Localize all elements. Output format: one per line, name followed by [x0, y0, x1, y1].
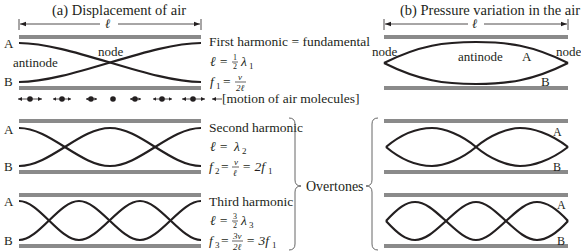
node-label-right: node — [556, 44, 581, 59]
svg-text:= 2f: = 2f — [242, 159, 267, 174]
svg-text:ℓ: ℓ — [233, 168, 237, 178]
label-a: A — [553, 125, 562, 139]
svg-text:2: 2 — [233, 221, 237, 230]
svg-text:3: 3 — [233, 212, 237, 221]
overtones-bracket: Overtones — [289, 118, 378, 250]
svg-text:λ: λ — [240, 54, 247, 69]
panel-a-title: (a) Displacement of air — [52, 2, 186, 19]
label-a: A — [4, 36, 14, 51]
fundamental-text: First harmonic = fundamental ℓ = 1 2 λ 1… — [209, 34, 370, 93]
length-symbol: ℓ — [472, 16, 478, 31]
node-label: node — [98, 44, 124, 59]
harmonic-name: Third harmonic — [209, 194, 293, 209]
tube-wall-bottom — [384, 170, 568, 174]
antinode-label: antinode — [13, 55, 58, 70]
svg-text:3: 3 — [215, 240, 220, 250]
tube-b-fundamental: node node antinode A B — [372, 35, 581, 90]
pressure-curve-a — [386, 202, 568, 240]
svg-text:v: v — [238, 72, 242, 82]
label-a: A — [4, 194, 14, 209]
svg-text:2ℓ: 2ℓ — [233, 242, 242, 251]
tube-wall-bottom — [19, 86, 201, 90]
svg-text:= 3f: = 3f — [246, 233, 271, 248]
panel-b-length-dimension: ℓ — [384, 16, 568, 31]
svg-text:λ: λ — [233, 139, 240, 154]
svg-text:1: 1 — [233, 53, 237, 62]
svg-text:1: 1 — [268, 166, 273, 176]
harmonic-name: First harmonic = fundamental — [209, 34, 370, 49]
harmonic-name: Second harmonic — [209, 120, 303, 135]
svg-text:2: 2 — [215, 166, 220, 176]
svg-text:1: 1 — [272, 240, 277, 250]
label-b: B — [4, 74, 13, 89]
svg-text:3: 3 — [249, 220, 254, 230]
svg-text:2: 2 — [242, 146, 247, 156]
tube-a-second-harmonic: A B — [4, 119, 201, 174]
label-b: B — [557, 234, 565, 248]
wave-curve-a — [19, 128, 201, 166]
pressure-curve-b — [386, 128, 568, 166]
panel-b-title: (b) Pressure variation in the air — [400, 2, 580, 19]
label-a: A — [4, 122, 14, 137]
length-symbol: ℓ — [105, 16, 111, 31]
label-b: B — [541, 74, 550, 89]
label-a: A — [557, 198, 566, 212]
wave-curve-b — [19, 201, 201, 240]
right-brace — [366, 118, 378, 250]
svg-text:3v: 3v — [232, 231, 242, 241]
wave-curve-b — [19, 128, 201, 166]
tube-wall-top — [384, 193, 568, 197]
label-a: A — [522, 49, 532, 64]
tube-wall-top — [19, 193, 201, 197]
third-harmonic-text: Third harmonic ℓ = 3 2 λ 3 f 3 = 3v 2ℓ =… — [209, 194, 293, 251]
tube-a-fundamental: A B antinode node — [4, 35, 201, 90]
tube-wall-bottom — [19, 244, 201, 248]
label-b: B — [553, 160, 561, 174]
svg-text:1: 1 — [216, 81, 221, 91]
svg-text:=: = — [221, 233, 229, 248]
tube-b-second-harmonic: A B — [384, 119, 568, 174]
antinode-label: antinode — [458, 49, 503, 64]
overtones-label: Overtones — [306, 179, 364, 194]
svg-text:v: v — [234, 157, 238, 167]
molecule-motion-label: [motion of air molecules] — [222, 91, 360, 106]
tube-a-third-harmonic: A B — [4, 193, 201, 248]
tube-wall-top — [19, 35, 201, 39]
tube-wall-top — [19, 119, 201, 123]
eq-length: ℓ = — [210, 213, 228, 228]
left-brace — [289, 118, 301, 250]
svg-text:1: 1 — [249, 61, 254, 71]
eq-length: ℓ = — [210, 139, 228, 154]
pressure-curve-b — [386, 202, 568, 240]
standing-waves-diagram: (a) Displacement of air ℓ A B antinode n… — [0, 0, 581, 251]
tube-wall-top — [384, 119, 568, 123]
label-b: B — [4, 159, 13, 174]
node-label-left: node — [372, 44, 398, 59]
panel-a-length-dimension: ℓ — [19, 16, 201, 31]
label-b: B — [4, 233, 13, 248]
svg-text:λ: λ — [240, 213, 247, 228]
tube-wall-top — [384, 35, 568, 39]
tube-b-third-harmonic: A B — [384, 193, 568, 248]
tube-wall-bottom — [384, 244, 568, 248]
svg-text:2: 2 — [233, 62, 237, 71]
svg-text:=: = — [223, 74, 231, 89]
tube-wall-bottom — [19, 170, 201, 174]
eq-length: ℓ = — [210, 54, 228, 69]
air-molecules-row: [motion of air molecules] — [18, 91, 360, 106]
second-harmonic-text: Second harmonic ℓ = λ 2 f 2 = v ℓ = 2f 1 — [209, 120, 303, 178]
svg-text:=: = — [221, 159, 229, 174]
